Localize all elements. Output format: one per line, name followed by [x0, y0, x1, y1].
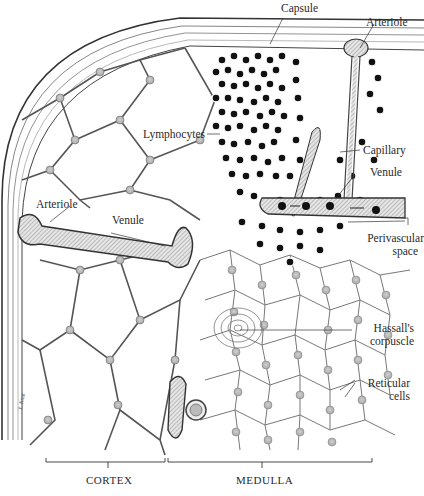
- label-hassall-line1: Hassall's: [374, 322, 414, 334]
- hassalls-corpuscle: [214, 308, 262, 348]
- region-cortex: CORTEX: [86, 474, 132, 486]
- thymus-diagram: J. Jinar Capsule Arteriole Lymphocytes C…: [0, 0, 424, 496]
- label-arteriole-top: Arteriole: [366, 16, 408, 29]
- region-medulla: MEDULLA: [236, 474, 293, 486]
- lower-vessels: [168, 376, 206, 438]
- label-perivascular: Perivascular space: [352, 232, 424, 258]
- label-venule-left: Venule: [112, 214, 144, 227]
- label-hassall-line2: corpuscle: [370, 335, 414, 347]
- label-lymphocytes: Lymphocytes: [143, 128, 205, 141]
- venule-right: [260, 198, 405, 218]
- label-perivascular-line1: Perivascular: [367, 232, 424, 244]
- label-venule-right: Venule: [370, 166, 402, 179]
- label-reticular-cells: Reticular cells: [356, 377, 410, 403]
- label-hassalls-corpuscle: Hassall's corpuscle: [352, 322, 414, 348]
- label-reticular-line2: cells: [389, 390, 410, 402]
- label-capsule: Capsule: [281, 2, 318, 15]
- section-brackets: [46, 458, 372, 468]
- arteriole-venule-left: [18, 214, 193, 267]
- label-reticular-line1: Reticular: [368, 377, 410, 389]
- medulla-reticulum: [200, 250, 410, 450]
- label-arteriole-left: Arteriole: [36, 198, 78, 211]
- label-capillary: Capillary: [363, 144, 406, 157]
- artist-signature: J. Jinar: [17, 392, 26, 410]
- label-perivascular-line2: space: [392, 245, 418, 257]
